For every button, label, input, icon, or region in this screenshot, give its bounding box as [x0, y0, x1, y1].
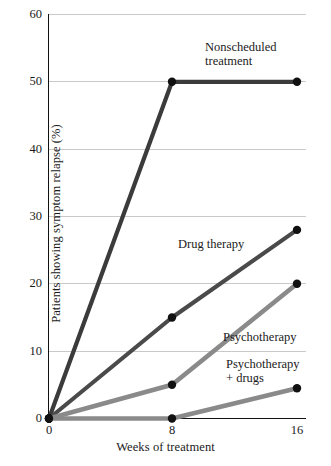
relapse-line-chart: Patients showing symptom relapse (%) 60 …	[0, 0, 331, 466]
series-line-drug-therapy	[49, 230, 297, 419]
data-point-nonscheduled-8	[168, 78, 176, 86]
data-point-psychotherapy-8	[168, 381, 176, 389]
y-tick-label-50: 50	[12, 74, 42, 89]
data-point-drug-8	[168, 313, 176, 321]
data-point-psychodrugs-16	[293, 384, 301, 392]
data-point-psychodrugs-0	[45, 414, 53, 422]
y-tick-label-40: 40	[12, 142, 42, 157]
series-annotation-drug-therapy: Drug therapy	[178, 237, 244, 251]
data-point-nonscheduled-16	[293, 78, 301, 86]
y-tick-label-20: 20	[12, 276, 42, 291]
series-annotation-nonscheduled-treatment: Nonscheduled treatment	[205, 40, 277, 68]
y-tick-label-30: 30	[12, 209, 42, 224]
x-tick-label-16: 16	[282, 423, 312, 438]
y-tick-label-10: 10	[12, 344, 42, 359]
series-annotation-psychotherapy: Psychotherapy	[223, 330, 297, 344]
data-point-drug-16	[293, 226, 301, 234]
x-tick-label-0: 0	[34, 423, 64, 438]
y-tick-label-60: 60	[12, 7, 42, 22]
x-axis-title: Weeks of treatment	[0, 440, 331, 455]
series-annotation-psychotherapy-plus-drugs: Psychotherapy + drugs	[226, 357, 300, 385]
data-point-psychodrugs-8	[168, 414, 176, 422]
y-axis-title: Patients showing symptom relapse (%)	[49, 74, 64, 374]
x-tick-label-8: 8	[157, 423, 187, 438]
data-point-psychotherapy-16	[293, 280, 301, 288]
series-line-psychotherapy-plus-drugs	[49, 388, 297, 418]
